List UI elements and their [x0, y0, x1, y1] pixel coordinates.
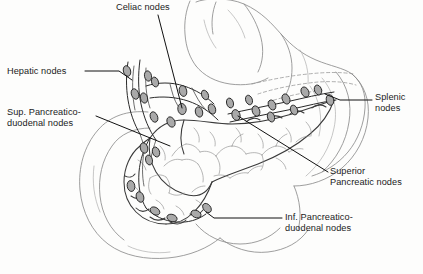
- lymph-node: [122, 65, 132, 77]
- pancreas-lymph-node-diagram: [0, 0, 423, 274]
- label-line: Superior: [330, 166, 365, 176]
- label-line: Hepatic nodes: [7, 66, 66, 76]
- lymph-node: [244, 94, 254, 105]
- label-line: Sup. Pancreatico-: [7, 107, 81, 117]
- lymph-node: [267, 99, 278, 111]
- leader-celiac: [158, 15, 182, 108]
- label-line: nodes: [375, 103, 400, 113]
- label-sup-pancreaticoduodenal-nodes: Sup. Pancreatico-duodenal nodes: [7, 107, 81, 129]
- lymph-node: [177, 103, 187, 115]
- anatomical-figure: Celiac nodes Hepatic nodes Sup. Pancreat…: [0, 0, 423, 274]
- lymph-node: [126, 180, 135, 192]
- label-line: duodenal nodes: [285, 223, 351, 233]
- duodenum-outline: [80, 112, 308, 259]
- stomach-outline: [185, 0, 365, 176]
- pancreas-texture: [133, 122, 311, 215]
- lymph-node: [280, 93, 291, 106]
- leader-sup-panc: [238, 116, 328, 172]
- lymph-node: [149, 111, 160, 124]
- lymph-node: [151, 146, 161, 158]
- leader-inf-pd: [206, 212, 282, 218]
- label-superior-pancreatic-nodes: SuperiorPancreatic nodes: [330, 166, 402, 188]
- label-hepatic-nodes: Hepatic nodes: [7, 66, 66, 77]
- lymph-node: [225, 97, 234, 108]
- label-line: Inf. Pancreatico-: [285, 212, 353, 222]
- lymph-node: [207, 103, 217, 115]
- node-group-hepatic: [122, 65, 160, 124]
- lymph-node: [165, 115, 177, 128]
- label-splenic-nodes: Splenicnodes: [375, 92, 405, 114]
- label-line: Pancreatic nodes: [330, 177, 402, 187]
- lymph-node: [139, 142, 149, 154]
- label-line: Celiac nodes: [116, 2, 170, 12]
- label-line: Splenic: [375, 92, 405, 102]
- label-inf-pancreaticoduodenal-nodes: Inf. Pancreatico-duodenal nodes: [285, 212, 353, 234]
- lymph-node: [135, 191, 145, 204]
- label-line: duodenal nodes: [7, 118, 73, 128]
- label-celiac-nodes: Celiac nodes: [116, 2, 170, 13]
- lymph-node: [149, 205, 162, 217]
